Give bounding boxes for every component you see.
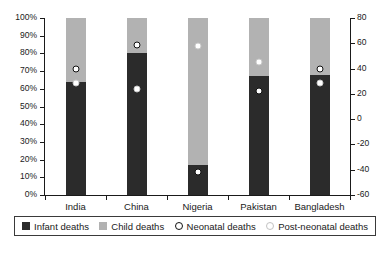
x-axis-category-label: Bangladesh bbox=[289, 201, 350, 212]
left-axis-tick bbox=[40, 177, 44, 178]
right-axis-tick bbox=[351, 170, 355, 171]
legend-swatch-open-circle-dark-icon bbox=[175, 222, 183, 230]
left-axis-tick bbox=[40, 160, 44, 161]
marker-post-neonatal-deaths[interactable] bbox=[194, 43, 201, 50]
right-axis-tick-label: 40 bbox=[357, 64, 366, 73]
bar-segment-child-deaths[interactable] bbox=[188, 18, 208, 165]
bar-segment-infant-deaths[interactable] bbox=[310, 75, 330, 195]
marker-neonatal-deaths[interactable] bbox=[316, 66, 323, 73]
bar-group[interactable] bbox=[66, 18, 86, 195]
left-axis-tick-label: 80% bbox=[20, 48, 37, 57]
x-axis-category-label: Nigeria bbox=[167, 201, 228, 212]
x-axis-tick bbox=[228, 196, 229, 200]
x-axis-category-label: China bbox=[106, 201, 167, 212]
marker-neonatal-deaths[interactable] bbox=[194, 168, 201, 175]
left-axis-tick-label: 100% bbox=[15, 13, 37, 22]
right-axis-tick-label: -60 bbox=[357, 190, 369, 199]
bar-segment-child-deaths[interactable] bbox=[127, 18, 147, 53]
marker-neonatal-deaths[interactable] bbox=[72, 66, 79, 73]
bar-group[interactable] bbox=[127, 18, 147, 195]
figure-caption bbox=[14, 247, 344, 256]
left-axis-tick bbox=[40, 142, 44, 143]
right-axis-tick-label: 80 bbox=[357, 13, 366, 22]
right-axis-tick bbox=[351, 43, 355, 44]
right-axis-tick-label: 20 bbox=[357, 89, 366, 98]
right-axis-tick-label: 60 bbox=[357, 38, 366, 47]
right-axis-tick-label: 0 bbox=[357, 114, 362, 123]
legend-item-label: Infant deaths bbox=[34, 221, 89, 232]
x-axis-tick bbox=[167, 196, 168, 200]
left-axis-tick-label: 50% bbox=[20, 102, 37, 111]
left-axis-tick-label: 20% bbox=[20, 155, 37, 164]
x-axis-spine bbox=[44, 195, 351, 196]
left-axis-tick-label: 60% bbox=[20, 84, 37, 93]
x-axis-tick bbox=[106, 196, 107, 200]
marker-post-neonatal-deaths[interactable] bbox=[133, 85, 140, 92]
bar-segment-infant-deaths[interactable] bbox=[66, 82, 86, 195]
marker-neonatal-deaths[interactable] bbox=[255, 87, 262, 94]
bar-group[interactable] bbox=[310, 18, 330, 195]
marker-post-neonatal-deaths[interactable] bbox=[72, 80, 79, 87]
chart-legend: Infant deathsChild deathsNeonatal deaths… bbox=[14, 216, 376, 236]
left-axis-tick-label: 90% bbox=[20, 31, 37, 40]
x-axis-tick bbox=[350, 196, 351, 200]
left-axis-tick bbox=[40, 107, 44, 108]
marker-neonatal-deaths[interactable] bbox=[133, 41, 140, 48]
bar-group[interactable] bbox=[188, 18, 208, 195]
left-axis-tick bbox=[40, 71, 44, 72]
left-axis-tick bbox=[40, 18, 44, 19]
left-axis-tick-label: 70% bbox=[20, 66, 37, 75]
left-axis-tick bbox=[40, 89, 44, 90]
left-axis-tick-label: 0% bbox=[25, 190, 37, 199]
left-axis-tick-label: 10% bbox=[20, 172, 37, 181]
bar-group[interactable] bbox=[249, 18, 269, 195]
chart-figure: 0%10%20%30%40%50%60%70%80%90%100% 806040… bbox=[0, 0, 390, 256]
legend-swatch-filled-square-light-icon bbox=[99, 222, 107, 230]
right-axis-tick-label: -40 bbox=[357, 165, 369, 174]
x-axis-tick bbox=[289, 196, 290, 200]
right-axis-tick-label: -20 bbox=[357, 139, 369, 148]
right-axis-tick bbox=[351, 119, 355, 120]
legend-item-label: Neonatal deaths bbox=[187, 221, 256, 232]
legend-item[interactable]: Infant deaths bbox=[22, 221, 89, 232]
legend-item-label: Child deaths bbox=[111, 221, 164, 232]
left-axis-tick bbox=[40, 124, 44, 125]
x-axis-category-label: Pakistan bbox=[228, 201, 289, 212]
marker-post-neonatal-deaths[interactable] bbox=[316, 80, 323, 87]
legend-item[interactable]: Child deaths bbox=[99, 221, 164, 232]
legend-item-label: Post-neonatal deaths bbox=[278, 221, 368, 232]
legend-swatch-filled-square-dark-icon bbox=[22, 222, 30, 230]
legend-item[interactable]: Post-neonatal deaths bbox=[266, 221, 368, 232]
x-axis-category-label: India bbox=[45, 201, 106, 212]
right-axis-tick bbox=[351, 195, 355, 196]
left-axis-tick-label: 40% bbox=[20, 119, 37, 128]
left-axis-tick bbox=[40, 36, 44, 37]
left-axis-tick-label: 30% bbox=[20, 137, 37, 146]
legend-item[interactable]: Neonatal deaths bbox=[175, 221, 256, 232]
x-axis-tick bbox=[45, 196, 46, 200]
marker-post-neonatal-deaths[interactable] bbox=[255, 59, 262, 66]
bar-segment-infant-deaths[interactable] bbox=[249, 76, 269, 195]
bar-segment-child-deaths[interactable] bbox=[249, 18, 269, 76]
left-axis-spine bbox=[44, 18, 45, 196]
left-axis-tick bbox=[40, 53, 44, 54]
legend-swatch-open-circle-light-icon bbox=[266, 222, 274, 230]
bar-segment-infant-deaths[interactable] bbox=[127, 53, 147, 195]
right-axis-tick bbox=[351, 94, 355, 95]
left-axis-tick bbox=[40, 195, 44, 196]
right-axis-tick bbox=[351, 18, 355, 19]
right-axis-tick bbox=[351, 69, 355, 70]
right-axis-tick bbox=[351, 144, 355, 145]
